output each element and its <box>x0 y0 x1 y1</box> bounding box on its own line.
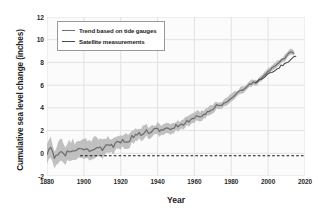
y-tick-label: 10 <box>26 36 44 43</box>
legend-item-satellite: Satellite measurements <box>62 36 160 47</box>
x-tick-label: 2000 <box>261 178 275 185</box>
x-axis-tick-labels: 18801900192019401960198020002020 <box>0 178 318 188</box>
legend-swatch-tide-gauges <box>62 30 75 31</box>
y-tick-label: 0 <box>26 150 44 157</box>
chart-legend: Trend based on tide gauges Satellite mea… <box>57 21 165 51</box>
x-tick-label: 1960 <box>187 178 201 185</box>
y-tick-label: 4 <box>26 104 44 111</box>
y-tick-label: 2 <box>26 127 44 134</box>
x-tick-label: 1980 <box>224 178 238 185</box>
y-tick-label: 8 <box>26 59 44 66</box>
x-tick-label: 1940 <box>150 178 164 185</box>
x-tick-label: 1900 <box>77 178 91 185</box>
legend-swatch-satellite <box>62 41 75 42</box>
y-tick-label: 6 <box>26 82 44 89</box>
x-tick-label: 1920 <box>114 178 128 185</box>
x-axis-title: Year <box>47 195 305 205</box>
legend-item-tide-gauges: Trend based on tide gauges <box>62 25 160 36</box>
x-tick-label: 1880 <box>40 178 54 185</box>
x-tick-label: 2020 <box>298 178 312 185</box>
legend-label-tide-gauges: Trend based on tide gauges <box>79 27 156 34</box>
y-tick-label: 12 <box>26 14 44 21</box>
legend-label-satellite: Satellite measurements <box>79 38 144 45</box>
sea-level-chart-figure: Cumulative sea level change (inches) -20… <box>0 0 318 214</box>
